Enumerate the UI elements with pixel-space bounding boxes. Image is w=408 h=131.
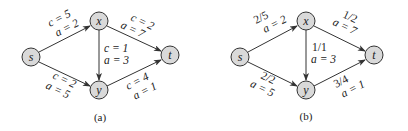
svg-text:y: y xyxy=(95,83,102,97)
node-t: t xyxy=(365,46,383,64)
node-y: y xyxy=(90,81,108,99)
svg-text:1/1: 1/1 xyxy=(312,41,327,53)
svg-text:y: y xyxy=(302,83,309,97)
figure-a: c = 5 a = 2 c = 2 a = 5 c = 1 a = 3 c = … xyxy=(22,6,179,124)
edge-label-s-y: c = 2 a = 5 xyxy=(44,68,78,101)
figure-b: 2/5 a = 2 2/2 a = 5 1/1 a = 3 1/2 a = 7 … xyxy=(231,2,383,123)
node-s: s xyxy=(231,48,249,66)
edge-label-x-y: 1/1 a = 3 xyxy=(311,41,336,65)
caption-b: (b) xyxy=(300,110,313,123)
graph-canvas: c = 5 a = 2 c = 2 a = 5 c = 1 a = 3 c = … xyxy=(0,0,408,131)
edge-label-y-t: c = 4 a = 1 xyxy=(123,69,158,103)
edge-label-s-y: 2/2 a = 5 xyxy=(249,66,282,98)
edge-label-s-x: 2/5 a = 2 xyxy=(251,2,288,37)
edge-label-y-t: 3/4 a = 1 xyxy=(331,67,366,101)
svg-text:x: x xyxy=(95,14,102,28)
edge-label-x-y: c = 1 a = 3 xyxy=(104,42,129,66)
node-t: t xyxy=(161,46,179,64)
svg-text:x: x xyxy=(302,14,309,28)
svg-text:s: s xyxy=(238,50,243,64)
node-s: s xyxy=(22,48,40,66)
svg-text:s: s xyxy=(29,50,34,64)
caption-a: (a) xyxy=(94,111,107,124)
edge-label-s-x: c = 5 a = 2 xyxy=(45,6,80,40)
node-x: x xyxy=(297,12,315,30)
node-x: x xyxy=(90,12,108,30)
network-flow-figure: c = 5 a = 2 c = 2 a = 5 c = 1 a = 3 c = … xyxy=(0,0,408,131)
svg-text:a = 3: a = 3 xyxy=(104,54,129,66)
node-y: y xyxy=(297,81,315,99)
svg-text:c = 1: c = 1 xyxy=(104,42,128,54)
edge-label-x-t: 1/2 a = 7 xyxy=(331,5,365,37)
edge-label-x-t: c = 2 a = 7 xyxy=(119,8,156,42)
svg-text:a = 3: a = 3 xyxy=(311,53,336,65)
